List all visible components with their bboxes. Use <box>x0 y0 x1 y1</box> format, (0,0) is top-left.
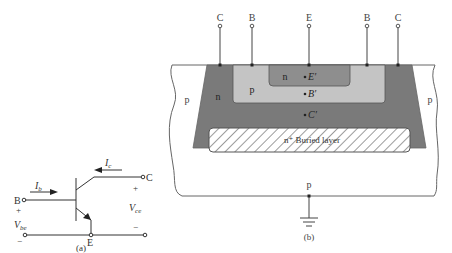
label-c: C <box>146 172 153 183</box>
node-e-prime: E′ <box>307 71 317 82</box>
caption-a: (a) <box>76 243 86 253</box>
contact-b-right <box>365 24 369 28</box>
vce-minus: − <box>133 222 138 232</box>
contact-label-e: E <box>306 12 312 23</box>
label-p-base: p <box>250 84 255 95</box>
vbe-minus: − <box>17 236 22 246</box>
contact-c-left <box>218 24 222 28</box>
ground-icon <box>300 196 318 226</box>
collector-diag <box>76 177 94 190</box>
ib-arrow-icon <box>50 189 58 195</box>
rail-left-terminal <box>23 233 27 237</box>
label-p-right: p <box>428 94 433 105</box>
caption-b: (b) <box>304 232 315 242</box>
contact-label-b-left: B <box>249 12 256 23</box>
label-p-bottom: p <box>307 179 312 190</box>
contact-label-b-right: B <box>364 12 371 23</box>
ic-arrow-icon <box>94 167 102 173</box>
transistor-symbol <box>24 177 145 235</box>
label-vbe: Vbe <box>14 219 27 232</box>
contact-c-right <box>396 24 400 28</box>
node-c-prime: C′ <box>308 109 318 120</box>
label-n-emitter: n <box>283 71 288 82</box>
contact-label-c-right: C <box>395 12 402 23</box>
vbe-plus: + <box>16 205 21 215</box>
node-b-prime: B′ <box>308 88 317 99</box>
vce-plus: + <box>133 183 138 193</box>
base-terminal <box>22 198 26 202</box>
contact-e <box>307 24 311 28</box>
label-vce: Vce <box>129 202 141 215</box>
label-ic: Ic <box>104 157 112 170</box>
rail-right-terminal <box>143 233 147 237</box>
bjt-figure: B C E (a) Ib Ic + − Vbe + − Vce <box>0 0 452 253</box>
contact-leads <box>220 27 398 65</box>
collector-terminal <box>141 175 145 179</box>
contact-label-c-left: C <box>217 12 224 23</box>
label-ib: Ib <box>34 180 42 193</box>
label-e: E <box>87 237 93 248</box>
contact-b-left <box>250 24 254 28</box>
label-p-left: p <box>185 94 190 105</box>
label-n-collector: n <box>216 91 221 102</box>
label-buried-layer: n⁺ Buried layer <box>284 135 340 145</box>
